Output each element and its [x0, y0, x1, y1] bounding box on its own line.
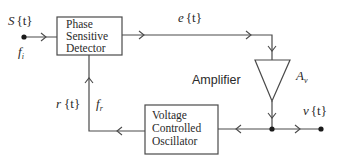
amplifier-gain-label: Av — [295, 68, 308, 85]
amplifier-block — [255, 60, 290, 101]
error-signal-path — [122, 31, 276, 60]
pll-block-diagram: S{t} fi Phase Sensitive Detector e{t} Am… — [0, 0, 350, 166]
input-node — [21, 34, 26, 39]
reference-signal-label: r{t} — [56, 96, 80, 111]
vco-label-line-3: Oscillator — [152, 135, 198, 147]
psd-label-line-2: Sensitive — [66, 30, 108, 42]
phase-sensitive-detector-block: Phase Sensitive Detector — [57, 17, 122, 55]
junction-node — [269, 126, 274, 131]
amplifier-output-path — [268, 101, 276, 129]
psd-label-line-1: Phase — [66, 18, 93, 30]
input-signal-path — [21, 33, 57, 41]
psd-label-line-3: Detector — [66, 42, 106, 54]
output-signal-label: v{t} — [303, 103, 327, 118]
feedback-signal-path — [85, 55, 145, 135]
vco-label-line-1: Voltage — [152, 109, 187, 122]
output-signal-path — [218, 125, 324, 133]
error-signal-label: e{t} — [178, 10, 202, 25]
voltage-controlled-oscillator-block: Voltage Controlled Oscillator — [145, 105, 218, 154]
input-frequency-label: fi — [18, 44, 24, 61]
reference-frequency-label: fr — [96, 96, 104, 113]
output-node — [318, 126, 323, 131]
vco-label-line-2: Controlled — [152, 122, 201, 134]
input-signal-label: S{t} — [8, 13, 33, 28]
amplifier-label: Amplifier — [192, 73, 241, 87]
